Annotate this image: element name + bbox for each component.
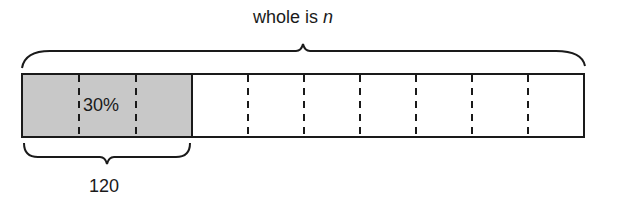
whole-brace (22, 44, 585, 68)
part-value-label: 120 (89, 177, 119, 195)
percent-label: 30% (83, 96, 119, 114)
whole-variable: n (323, 7, 333, 27)
whole-label: whole is n (253, 8, 333, 26)
whole-label-prefix: whole is (253, 7, 323, 27)
part-brace (24, 143, 190, 164)
